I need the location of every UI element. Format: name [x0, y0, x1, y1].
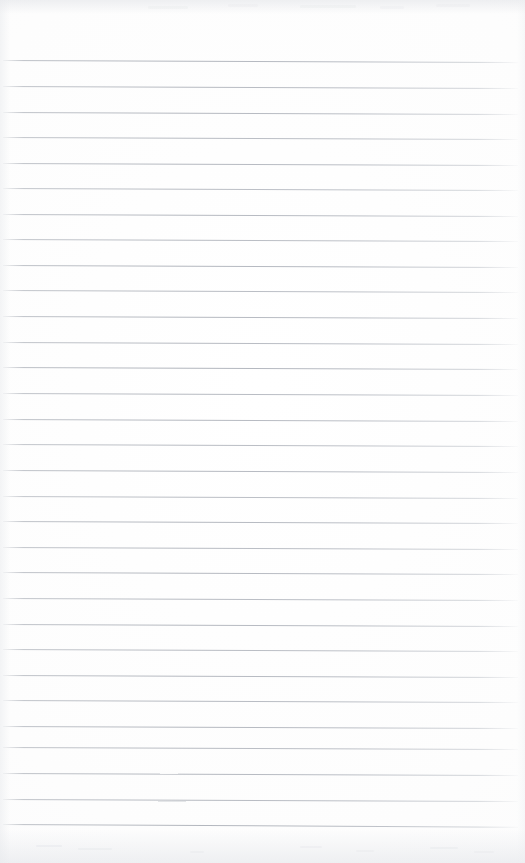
scan-speck-7	[474, 851, 494, 853]
rule-line-5	[3, 163, 518, 166]
rule-line-22	[3, 598, 518, 601]
rule-line-21	[3, 572, 518, 575]
rule-line-26	[3, 700, 518, 703]
rule-line-11	[3, 316, 518, 319]
rule-line-4	[3, 137, 518, 140]
rule-line-30	[3, 799, 518, 802]
rule-line-10	[3, 290, 518, 293]
scan-speck-8	[148, 6, 188, 9]
rule-line-16	[3, 444, 518, 447]
ruled-lines-layer	[0, 0, 525, 863]
rule-line-8	[3, 239, 518, 242]
rule-line-1	[3, 60, 518, 63]
rule-break-line-29	[160, 772, 178, 774]
rule-line-17	[3, 470, 518, 473]
rule-line-18	[3, 496, 518, 499]
rule-line-6	[3, 188, 518, 191]
scan-speck-2	[78, 848, 112, 850]
rule-line-28	[3, 747, 518, 750]
rule-line-2	[3, 86, 518, 89]
rule-line-15	[3, 419, 518, 422]
rule-line-19	[3, 521, 518, 524]
rule-line-25	[3, 675, 518, 678]
rule-line-29	[3, 773, 518, 776]
scan-speck-12	[436, 4, 470, 7]
pencil-dash-lower-left	[158, 801, 186, 802]
rule-line-13	[3, 367, 518, 370]
scan-speck-4	[300, 846, 322, 848]
rule-line-27	[3, 726, 518, 729]
rule-line-31	[3, 824, 518, 828]
scanned-notebook-page	[0, 0, 525, 863]
scan-speck-11	[380, 6, 404, 9]
rule-line-24	[3, 649, 518, 652]
scan-speck-6	[430, 847, 458, 849]
rule-line-7	[3, 214, 518, 217]
rule-line-14	[3, 393, 518, 396]
rule-line-3	[3, 112, 518, 115]
scan-speck-10	[300, 5, 356, 8]
scan-speck-5	[356, 850, 374, 852]
rule-line-9	[3, 265, 518, 268]
rule-line-12	[3, 342, 518, 345]
scan-speck-9	[228, 4, 258, 7]
scan-speck-3	[190, 851, 204, 853]
scan-speck-1	[36, 845, 62, 847]
rule-line-20	[3, 547, 518, 550]
rule-line-23	[3, 624, 518, 627]
